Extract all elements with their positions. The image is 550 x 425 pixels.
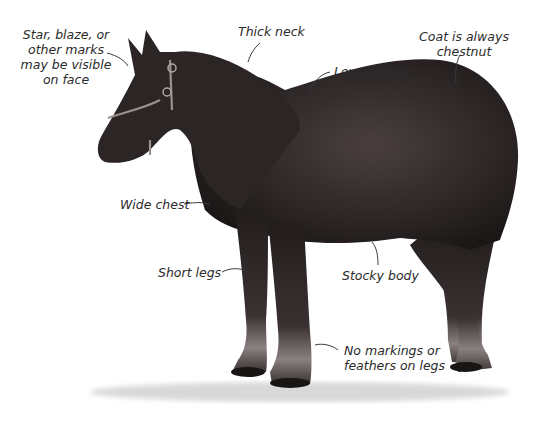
label-line: other marks [16, 42, 116, 57]
hoof [450, 362, 482, 372]
label-line: Short legs [158, 265, 221, 280]
label-short-legs: Short legs [158, 265, 221, 280]
label-coat-color: Coat is always chestnut [418, 29, 510, 59]
label-line: on face [16, 72, 116, 87]
label-stocky-body: Stocky body [342, 268, 419, 283]
label-low-withers: Low withers [334, 64, 409, 79]
label-no-markings: No markings or feathers on legs [344, 343, 445, 373]
leader-markings [315, 344, 338, 350]
front-leg-near [268, 220, 312, 384]
label-line: chestnut [418, 44, 510, 59]
leader-body [372, 242, 378, 265]
horse-diagram: Star, blaze, or other marks may be visib… [0, 0, 550, 425]
label-line: Low withers [334, 64, 409, 79]
label-line: Wide chest [120, 197, 189, 212]
label-line: Thick neck [238, 24, 305, 39]
label-wide-chest: Wide chest [120, 197, 189, 212]
front-leg-far [232, 210, 268, 372]
label-line: may be visible [16, 57, 116, 72]
label-line: Stocky body [342, 268, 419, 283]
label-line: Coat is always [418, 29, 510, 44]
label-thick-neck: Thick neck [238, 24, 305, 39]
label-line: Star, blaze, or [16, 27, 116, 42]
hoof [231, 367, 265, 377]
hoof [270, 378, 310, 388]
label-line: No markings or [344, 343, 445, 358]
leader-legs [222, 269, 245, 272]
label-face-markings: Star, blaze, or other marks may be visib… [16, 27, 116, 87]
leader-neck [248, 43, 260, 62]
label-line: feathers on legs [344, 358, 445, 373]
